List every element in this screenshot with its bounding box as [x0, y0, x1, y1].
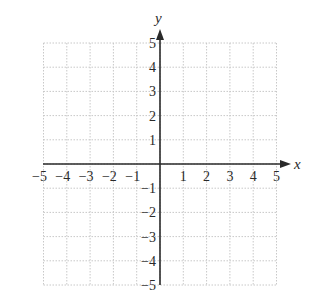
x-tick-label: 2	[203, 169, 210, 184]
x-tick-labels: −5−4−3−2−112345	[32, 169, 280, 184]
x-axis-label: x	[293, 156, 301, 172]
y-tick-label: 3	[149, 84, 156, 99]
y-axis-label: y	[153, 10, 162, 26]
x-tick-label: −2	[102, 169, 117, 184]
axes: x y	[43, 10, 301, 285]
x-tick-label: 5	[273, 169, 280, 184]
y-tick-label: −4	[141, 254, 156, 269]
x-axis-arrow-icon	[280, 160, 291, 168]
x-tick-label: −1	[125, 169, 140, 184]
y-tick-label: 5	[149, 36, 156, 51]
x-tick-label: −4	[55, 169, 70, 184]
y-axis-arrow-icon	[156, 29, 164, 40]
y-tick-label: −1	[141, 181, 156, 196]
x-tick-label: −5	[32, 169, 47, 184]
x-tick-label: −3	[79, 169, 94, 184]
y-tick-label: 4	[149, 60, 156, 75]
y-tick-label: −5	[141, 278, 156, 293]
y-tick-label: 1	[149, 133, 156, 148]
x-tick-label: 4	[250, 169, 257, 184]
coordinate-plane: x y −5−4−3−2−112345 54321−1−2−3−4−5	[0, 0, 314, 296]
y-tick-label: −2	[141, 205, 156, 220]
y-tick-label: 2	[149, 109, 156, 124]
x-tick-label: 3	[226, 169, 233, 184]
x-tick-label: 1	[180, 169, 187, 184]
y-tick-label: −3	[141, 230, 156, 245]
